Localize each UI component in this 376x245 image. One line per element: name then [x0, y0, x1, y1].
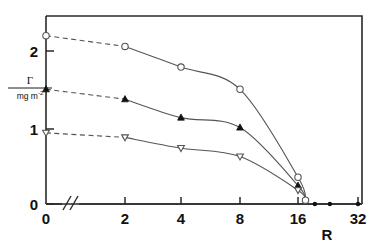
y-axis-title-numerator: Γ	[27, 74, 33, 86]
series-series-open-down-triangles	[43, 130, 306, 200]
data-point-series-circles-3	[237, 86, 243, 92]
y-tick-label-0: 0	[30, 196, 38, 213]
y-tick-label-2: 2	[30, 43, 38, 60]
baseline-point-1	[328, 202, 332, 206]
series-series-circles	[43, 33, 306, 201]
data-point-series-open-down-triangles-4	[295, 188, 302, 194]
data-point-series-filled-triangles-3	[237, 124, 244, 130]
x-tick-label-8: 8	[236, 210, 244, 227]
series-series-filled-triangles	[43, 86, 306, 201]
data-point-series-filled-triangles-0	[43, 86, 50, 92]
x-tick-label-16: 16	[290, 210, 307, 227]
chart-svg: 2 1 0 0 2 4 8 16 32 R Γ mg m-2	[0, 0, 376, 245]
baseline-point-0	[313, 202, 317, 206]
x-tick-label-2: 2	[121, 210, 129, 227]
chart-figure: 2 1 0 0 2 4 8 16 32 R Γ mg m-2	[0, 0, 376, 245]
data-point-series-circles-0	[43, 33, 49, 39]
data-point-series-circles-4	[295, 174, 301, 180]
x-axis-ticks	[125, 197, 358, 204]
y-tick-label-1: 1	[30, 121, 38, 138]
data-point-series-circles-2	[178, 64, 184, 70]
x-tick-label-0: 0	[42, 210, 50, 227]
y-axis-ticks	[46, 51, 54, 204]
data-point-series-circles-1	[122, 43, 128, 49]
y-axis-title-denominator: mg m-2	[17, 90, 44, 101]
data-point-convergence	[302, 197, 308, 203]
data-series-layer	[43, 33, 361, 207]
x-tick-label-4: 4	[177, 210, 186, 227]
baseline-point-2	[356, 202, 360, 206]
x-tick-label-32: 32	[350, 210, 367, 227]
plot-frame	[46, 16, 362, 204]
x-axis-title: R	[322, 226, 333, 243]
